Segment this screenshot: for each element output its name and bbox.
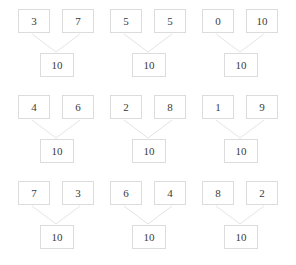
sum-box[interactable]: 10 <box>132 139 166 163</box>
addend-left-box[interactable]: 7 <box>18 181 50 205</box>
number-bond-group: 3710 <box>18 9 94 77</box>
connector-left <box>216 120 240 138</box>
sum-box[interactable]: 10 <box>132 53 166 77</box>
number-bond-group: 5510 <box>110 9 186 77</box>
addend-right-box[interactable]: 8 <box>154 95 186 119</box>
connector-left <box>124 206 148 224</box>
connector-right <box>148 120 172 138</box>
addend-right-box[interactable]: 9 <box>246 95 278 119</box>
number-bond-group: 4610 <box>18 95 94 163</box>
addend-right-box[interactable]: 6 <box>62 95 94 119</box>
connector-left <box>216 34 240 52</box>
sum-box[interactable]: 10 <box>40 225 74 249</box>
sum-box[interactable]: 10 <box>40 139 74 163</box>
sum-box[interactable]: 10 <box>132 225 166 249</box>
addend-left-box[interactable]: 0 <box>202 9 234 33</box>
addend-right-box[interactable]: 4 <box>154 181 186 205</box>
connector-right <box>148 206 172 224</box>
addend-left-box[interactable]: 4 <box>18 95 50 119</box>
number-bond-group: 2810 <box>110 95 186 163</box>
connector-right <box>240 120 264 138</box>
addend-right-box[interactable]: 7 <box>62 9 94 33</box>
connector-right <box>240 34 264 52</box>
number-bond-group: 8210 <box>202 181 278 249</box>
connector-left <box>32 34 56 52</box>
addend-left-box[interactable]: 3 <box>18 9 50 33</box>
addend-right-box[interactable]: 2 <box>246 181 278 205</box>
addend-left-box[interactable]: 8 <box>202 181 234 205</box>
sum-box[interactable]: 10 <box>40 53 74 77</box>
addend-left-box[interactable]: 5 <box>110 9 142 33</box>
number-bond-group: 01010 <box>202 9 278 77</box>
connector-right <box>56 206 80 224</box>
connector-left <box>32 120 56 138</box>
sum-box[interactable]: 10 <box>224 225 258 249</box>
addend-left-box[interactable]: 2 <box>110 95 142 119</box>
addend-right-box[interactable]: 3 <box>62 181 94 205</box>
addend-left-box[interactable]: 1 <box>202 95 234 119</box>
connector-right <box>56 34 80 52</box>
connector-left <box>32 206 56 224</box>
number-bond-group: 6410 <box>110 181 186 249</box>
connector-left <box>124 34 148 52</box>
connector-left <box>216 206 240 224</box>
connector-right <box>240 206 264 224</box>
connector-right <box>56 120 80 138</box>
sum-box[interactable]: 10 <box>224 53 258 77</box>
number-bond-worksheet: 3710551001010461028101910731064108210 <box>0 0 296 265</box>
connector-right <box>148 34 172 52</box>
addend-right-box[interactable]: 5 <box>154 9 186 33</box>
number-bond-group: 7310 <box>18 181 94 249</box>
number-bond-group: 1910 <box>202 95 278 163</box>
sum-box[interactable]: 10 <box>224 139 258 163</box>
connector-left <box>124 120 148 138</box>
addend-right-box[interactable]: 10 <box>246 9 278 33</box>
addend-left-box[interactable]: 6 <box>110 181 142 205</box>
